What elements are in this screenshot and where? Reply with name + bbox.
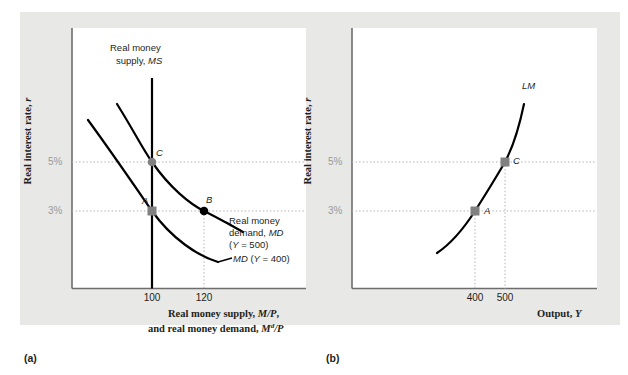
panel-a-xtick-120: 120: [190, 292, 218, 304]
panel-a-point-c-label: C: [156, 147, 163, 158]
panel-b-x-axis-title: Output, Y: [537, 308, 581, 320]
chart-vector-layer: [0, 0, 628, 375]
panel-b-point-c-label: C: [513, 155, 520, 166]
money-demand-curve-y500: [117, 104, 243, 232]
panel-b-point-c-marker: [501, 158, 510, 167]
panel-a-ytick-3pct: 3%: [48, 205, 62, 217]
panel-a-leader-md400: [218, 258, 232, 262]
panel-b-point-a-marker: [471, 207, 480, 216]
money-demand-y500-label-line3: (Y = 500): [229, 239, 268, 250]
money-supply-label-line1: Real money: [110, 42, 161, 53]
panel-b-xtick-400: 400: [461, 292, 489, 304]
panel-a-x-axis-title-line2: and real money demand, Md/P: [148, 321, 284, 335]
panel-a-point-b-label: B: [206, 194, 212, 205]
lm-curve: [437, 104, 524, 253]
money-supply-label-line2: supply, MS: [116, 55, 162, 66]
panel-a-point-a-marker: [148, 207, 157, 216]
panel-a-ytick-5pct: 5%: [48, 156, 62, 168]
panel-a-point-b-marker: [200, 207, 209, 216]
money-demand-y400-label: MD (Y = 400): [233, 253, 290, 264]
panel-b-point-a-label: A: [484, 205, 490, 216]
money-demand-y500-label-line1: Real money: [229, 215, 280, 226]
panel-a-point-c-marker: [148, 158, 157, 167]
panel-b-ytick-3pct: 3%: [328, 205, 342, 217]
economics-figure: Real interest rate, r 5% 3% 100 120 Real…: [0, 0, 628, 375]
money-demand-y500-label-line2: demand, MD: [229, 227, 283, 238]
panel-a-xtick-100: 100: [138, 292, 166, 304]
panel-b-ytick-5pct: 5%: [328, 156, 342, 168]
panel-a-letter: (a): [24, 352, 37, 364]
panel-b-xtick-500: 500: [491, 292, 519, 304]
panel-b-y-axis-title: Real interest rate, r: [302, 98, 314, 185]
lm-curve-label: LM: [522, 80, 535, 91]
panel-b-letter: (b): [326, 352, 339, 364]
panel-a-x-axis-title-line1: Real money supply, M/P,: [168, 308, 279, 320]
panel-a-y-axis-title: Real interest rate, r: [22, 98, 34, 185]
panel-a-point-a-label: A: [142, 195, 148, 206]
